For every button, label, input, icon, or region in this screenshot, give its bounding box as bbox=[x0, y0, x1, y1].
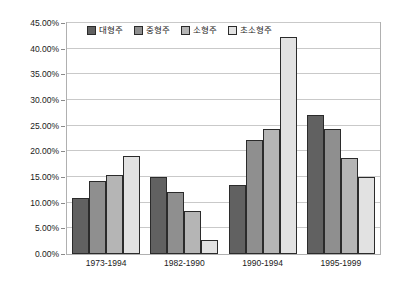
legend-swatch-icon bbox=[228, 26, 237, 35]
x-axis-tick-label: 1973-1994 bbox=[86, 258, 127, 268]
x-axis: 1973-19941982-19901990-19941995-1999 bbox=[67, 258, 380, 278]
y-axis-tick-mark bbox=[61, 126, 65, 127]
y-axis-tick-label: 30.00% bbox=[30, 96, 59, 104]
legend-label: 중형주 bbox=[146, 26, 170, 35]
bar[interactable] bbox=[184, 211, 201, 254]
y-axis-tick-label: 10.00% bbox=[30, 199, 59, 207]
bar[interactable] bbox=[280, 37, 297, 254]
bar[interactable] bbox=[341, 158, 358, 254]
x-axis-tick-label: 1982-1990 bbox=[164, 258, 205, 268]
bar[interactable] bbox=[167, 192, 184, 254]
bar[interactable] bbox=[201, 240, 218, 254]
bars-layer bbox=[67, 23, 380, 254]
bar[interactable] bbox=[246, 140, 263, 254]
x-axis-tick-label: 1995-1999 bbox=[321, 258, 362, 268]
legend-item[interactable]: 초소형주 bbox=[228, 26, 272, 35]
legend-label: 대형주 bbox=[99, 26, 123, 35]
y-axis-tick-mark bbox=[61, 254, 65, 255]
y-axis-tick-mark bbox=[61, 228, 65, 229]
y-axis-tick-label: 0.00% bbox=[35, 250, 59, 258]
legend-swatch-icon bbox=[181, 26, 190, 35]
legend-swatch-icon bbox=[134, 26, 143, 35]
legend-label: 초소형주 bbox=[240, 26, 272, 35]
bar-group bbox=[302, 23, 380, 254]
chart-legend: 대형주중형주소형주초소형주 bbox=[84, 24, 275, 37]
y-axis-tick-label: 15.00% bbox=[30, 173, 59, 181]
y-axis-tick-mark bbox=[61, 151, 65, 152]
legend-item[interactable]: 대형주 bbox=[87, 26, 123, 35]
bar[interactable] bbox=[229, 185, 246, 254]
y-axis-tick-mark bbox=[61, 23, 65, 24]
y-axis-tick-mark bbox=[61, 74, 65, 75]
bar[interactable] bbox=[89, 181, 106, 254]
bar[interactable] bbox=[150, 177, 167, 255]
bar[interactable] bbox=[123, 156, 140, 254]
y-axis-tick-mark bbox=[61, 203, 65, 204]
y-axis: 0.00%5.00%10.00%15.00%20.00%25.00%30.00%… bbox=[0, 0, 66, 287]
y-axis-tick-mark bbox=[61, 100, 65, 101]
legend-label: 소형주 bbox=[193, 26, 217, 35]
bar-chart: 0.00%5.00%10.00%15.00%20.00%25.00%30.00%… bbox=[0, 0, 400, 287]
bar[interactable] bbox=[263, 129, 280, 254]
legend-item[interactable]: 소형주 bbox=[181, 26, 217, 35]
legend-swatch-icon bbox=[87, 26, 96, 35]
y-axis-tick-label: 25.00% bbox=[30, 122, 59, 130]
bar[interactable] bbox=[106, 175, 123, 254]
y-axis-tick-label: 20.00% bbox=[30, 147, 59, 155]
y-axis-tick-mark bbox=[61, 49, 65, 50]
y-axis-tick-label: 45.00% bbox=[30, 19, 59, 27]
y-axis-tick-label: 40.00% bbox=[30, 45, 59, 53]
bar-group bbox=[224, 23, 302, 254]
bar[interactable] bbox=[72, 198, 89, 254]
bar[interactable] bbox=[324, 129, 341, 254]
y-axis-tick-mark bbox=[61, 177, 65, 178]
y-axis-tick-label: 5.00% bbox=[35, 224, 59, 232]
bar-group bbox=[67, 23, 145, 254]
bar-group bbox=[145, 23, 223, 254]
bar[interactable] bbox=[307, 115, 324, 254]
legend-item[interactable]: 중형주 bbox=[134, 26, 170, 35]
x-axis-tick-label: 1990-1994 bbox=[242, 258, 283, 268]
bar[interactable] bbox=[358, 177, 375, 255]
y-axis-tick-label: 35.00% bbox=[30, 70, 59, 78]
